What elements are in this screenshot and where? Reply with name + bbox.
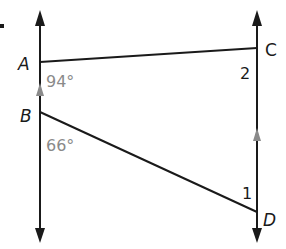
point-label-C: C xyxy=(265,40,277,60)
angle-label-1: 1 xyxy=(242,184,252,203)
left-line-up-arrow-icon xyxy=(35,10,45,26)
segment-BD xyxy=(40,112,257,212)
point-label-D: D xyxy=(263,210,276,230)
right-line-down-arrow-icon xyxy=(252,228,262,243)
point-label-B: B xyxy=(20,106,32,126)
angle-label-2: 2 xyxy=(240,64,250,83)
right-line-up-arrow-icon xyxy=(252,10,262,26)
bullet-marker xyxy=(0,24,4,28)
angle-label-B: 66° xyxy=(46,136,74,155)
segment-AC xyxy=(40,48,257,62)
parallel-marker-right-icon xyxy=(253,128,261,141)
parallel-marker-left-icon xyxy=(36,83,44,96)
left-line-down-arrow-icon xyxy=(35,228,45,243)
angle-label-A: 94° xyxy=(46,72,74,91)
geometry-figure: A B C D 94° 66° 2 1 xyxy=(0,0,286,249)
point-label-A: A xyxy=(17,54,30,74)
